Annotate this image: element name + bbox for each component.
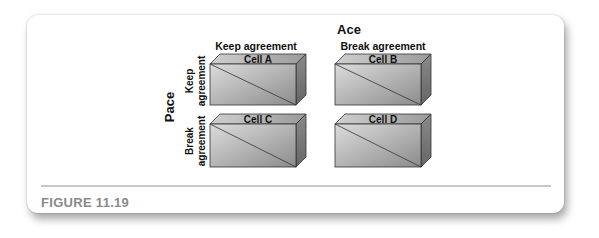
row-label-break-line2: agreement — [196, 115, 207, 166]
row-label-keep-line1: Keep — [184, 69, 195, 93]
column-label-keep: Keep agreement — [215, 40, 297, 52]
cell-c-box: Cell C — [210, 114, 306, 168]
payoff-matrix-diagram: Ace Keep agreement Break agreement Pace … — [27, 15, 564, 185]
cell-b-label: Cell B — [369, 54, 397, 65]
cell-a-label: Cell A — [244, 54, 272, 65]
caption-divider — [41, 185, 551, 187]
cell-c-label: Cell C — [244, 114, 272, 125]
figure-card: Ace Keep agreement Break agreement Pace … — [27, 15, 564, 213]
column-player-label: Ace — [337, 22, 361, 37]
row-label-keep-line2: agreement — [196, 55, 207, 106]
cell-d-label: Cell D — [369, 114, 397, 125]
cell-b-box: Cell B — [335, 54, 431, 106]
cell-d-box: Cell D — [335, 114, 431, 168]
cell-a-box: Cell A — [210, 54, 306, 106]
row-label-break-line1: Break — [184, 127, 195, 155]
row-player-label: Pace — [162, 92, 177, 122]
figure-caption: FIGURE 11.19 — [41, 195, 129, 210]
column-label-break: Break agreement — [340, 40, 426, 52]
